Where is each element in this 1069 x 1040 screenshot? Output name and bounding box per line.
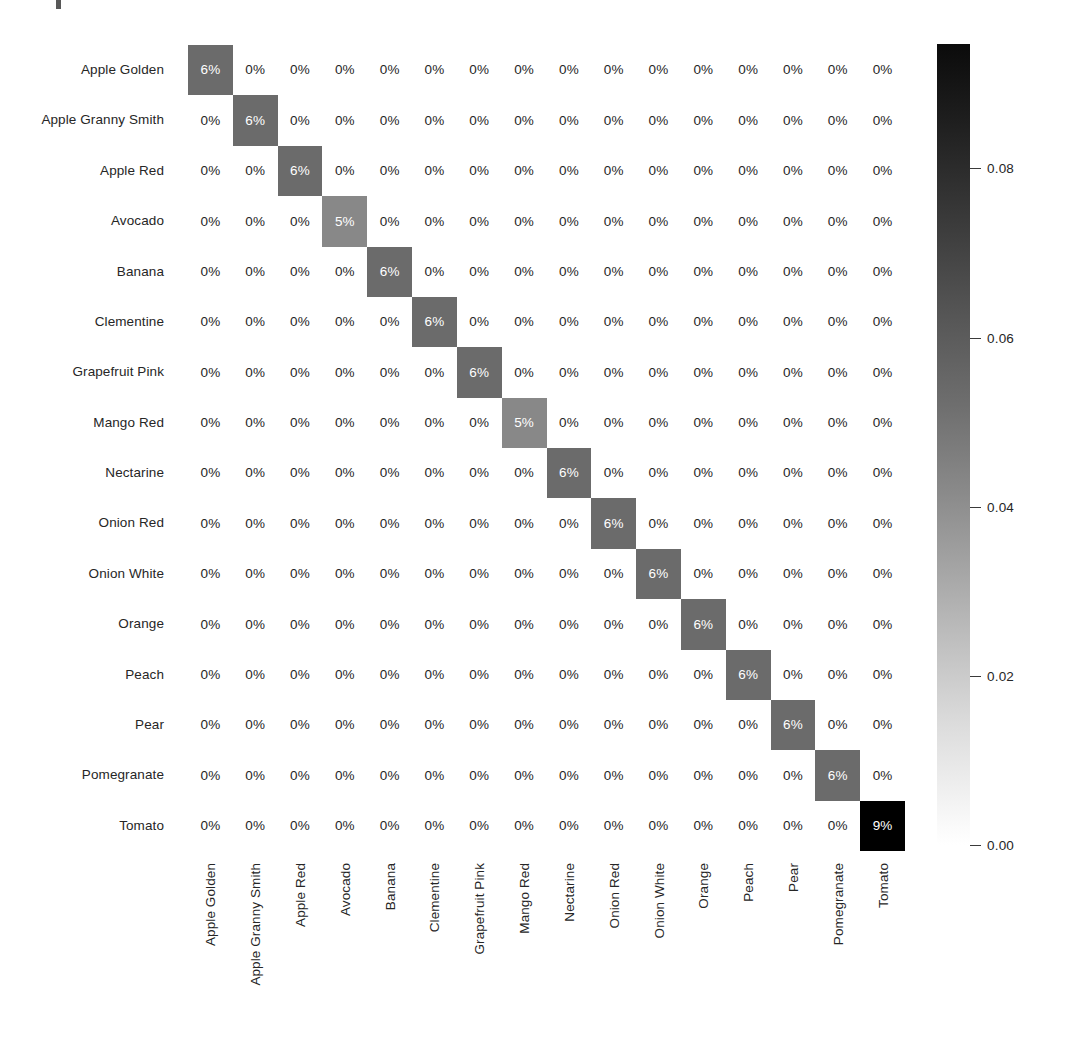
colorbar-tick-label: 0.04 bbox=[987, 499, 1014, 514]
y-axis-tick-label: Orange bbox=[118, 599, 164, 649]
matrix-cell: 0% bbox=[233, 45, 278, 95]
x-axis-tick-slot: Tomato bbox=[860, 851, 905, 1031]
matrix-cell: 0% bbox=[771, 801, 816, 851]
matrix-cell: 0% bbox=[815, 801, 860, 851]
matrix-cell: 0% bbox=[547, 398, 592, 448]
y-axis-tick-label: Apple Red bbox=[100, 146, 164, 196]
matrix-cell: 0% bbox=[815, 297, 860, 347]
matrix-cell: 0% bbox=[457, 498, 502, 548]
matrix-cell: 0% bbox=[278, 297, 323, 347]
matrix-cell: 0% bbox=[681, 247, 726, 297]
matrix-cell: 0% bbox=[367, 700, 412, 750]
x-axis-tick-slot: Mango Red bbox=[502, 851, 547, 1031]
x-axis-tick-label: Banana bbox=[382, 863, 397, 910]
matrix-cell: 0% bbox=[322, 498, 367, 548]
matrix-cell: 0% bbox=[502, 196, 547, 246]
matrix-cell: 0% bbox=[457, 700, 502, 750]
matrix-cell: 0% bbox=[233, 650, 278, 700]
matrix-cell: 0% bbox=[860, 549, 905, 599]
matrix-cell: 0% bbox=[547, 801, 592, 851]
matrix-cell: 0% bbox=[815, 599, 860, 649]
matrix-cell: 0% bbox=[860, 700, 905, 750]
matrix-cell: 0% bbox=[681, 549, 726, 599]
matrix-cell: 0% bbox=[412, 549, 457, 599]
matrix-cell: 0% bbox=[278, 347, 323, 397]
matrix-cell: 0% bbox=[815, 146, 860, 196]
matrix-cell: 0% bbox=[681, 650, 726, 700]
matrix-cell: 0% bbox=[726, 599, 771, 649]
matrix-cell: 0% bbox=[726, 801, 771, 851]
matrix-cell: 0% bbox=[457, 398, 502, 448]
matrix-cell: 0% bbox=[502, 599, 547, 649]
matrix-cell: 0% bbox=[412, 801, 457, 851]
matrix-cell: 0% bbox=[815, 700, 860, 750]
matrix-cell: 0% bbox=[457, 650, 502, 700]
matrix-cell: 0% bbox=[278, 498, 323, 548]
matrix-cell: 0% bbox=[726, 196, 771, 246]
matrix-cell: 0% bbox=[591, 750, 636, 800]
colorbar-tick-label: 0.08 bbox=[987, 161, 1014, 176]
heatmap-grid: 6%0%0%0%0%0%0%0%0%0%0%0%0%0%0%0%0%6%0%0%… bbox=[188, 45, 905, 851]
matrix-cell: 0% bbox=[502, 347, 547, 397]
matrix-cell: 0% bbox=[188, 750, 233, 800]
matrix-cell: 6% bbox=[547, 448, 592, 498]
matrix-row: 6%0%0%0%0%0%0%0%0%0%0%0%0%0%0%0% bbox=[188, 45, 905, 95]
matrix-cell: 0% bbox=[771, 448, 816, 498]
matrix-cell: 0% bbox=[860, 95, 905, 145]
matrix-cell: 0% bbox=[591, 448, 636, 498]
matrix-cell: 0% bbox=[367, 45, 412, 95]
matrix-cell: 0% bbox=[547, 146, 592, 196]
matrix-cell: 6% bbox=[771, 700, 816, 750]
matrix-cell: 0% bbox=[860, 297, 905, 347]
matrix-cell: 0% bbox=[457, 801, 502, 851]
x-axis-tick-label: Peach bbox=[741, 863, 756, 902]
matrix-cell: 0% bbox=[233, 700, 278, 750]
matrix-cell: 0% bbox=[681, 398, 726, 448]
x-axis-tick-label: Grapefruit Pink bbox=[472, 863, 487, 955]
matrix-cell: 0% bbox=[860, 750, 905, 800]
matrix-cell: 0% bbox=[591, 146, 636, 196]
matrix-cell: 6% bbox=[591, 498, 636, 548]
matrix-cell: 0% bbox=[547, 95, 592, 145]
colorbar-tick-label: 0.06 bbox=[987, 330, 1014, 345]
matrix-cell: 0% bbox=[278, 448, 323, 498]
matrix-cell: 0% bbox=[547, 297, 592, 347]
matrix-cell: 0% bbox=[412, 750, 457, 800]
matrix-cell: 6% bbox=[367, 247, 412, 297]
matrix-cell: 0% bbox=[278, 801, 323, 851]
matrix-cell: 0% bbox=[322, 650, 367, 700]
matrix-cell: 0% bbox=[367, 801, 412, 851]
matrix-row: 0%0%6%0%0%0%0%0%0%0%0%0%0%0%0%0% bbox=[188, 146, 905, 196]
matrix-cell: 0% bbox=[502, 750, 547, 800]
matrix-cell: 0% bbox=[681, 750, 726, 800]
matrix-cell: 5% bbox=[502, 398, 547, 448]
y-axis-tick-label: Tomato bbox=[119, 801, 164, 851]
matrix-cell: 0% bbox=[278, 45, 323, 95]
matrix-cell: 0% bbox=[771, 347, 816, 397]
matrix-cell: 0% bbox=[771, 650, 816, 700]
matrix-cell: 0% bbox=[636, 45, 681, 95]
matrix-cell: 0% bbox=[547, 247, 592, 297]
matrix-cell: 0% bbox=[502, 146, 547, 196]
matrix-row: 0%6%0%0%0%0%0%0%0%0%0%0%0%0%0%0% bbox=[188, 95, 905, 145]
matrix-cell: 0% bbox=[278, 247, 323, 297]
matrix-cell: 0% bbox=[591, 650, 636, 700]
matrix-cell: 0% bbox=[502, 650, 547, 700]
matrix-cell: 0% bbox=[636, 347, 681, 397]
matrix-cell: 0% bbox=[502, 498, 547, 548]
matrix-cell: 0% bbox=[636, 398, 681, 448]
matrix-cell: 0% bbox=[771, 549, 816, 599]
matrix-cell: 0% bbox=[367, 146, 412, 196]
x-axis-tick-slot: Clementine bbox=[412, 851, 457, 1031]
x-axis-tick-label: Nectarine bbox=[561, 863, 576, 922]
matrix-cell: 0% bbox=[681, 95, 726, 145]
matrix-cell: 6% bbox=[188, 45, 233, 95]
matrix-cell: 0% bbox=[278, 196, 323, 246]
matrix-cell: 0% bbox=[188, 196, 233, 246]
matrix-cell: 0% bbox=[367, 95, 412, 145]
matrix-cell: 0% bbox=[322, 45, 367, 95]
x-axis-tick-label: Avocado bbox=[337, 863, 352, 916]
x-axis-tick-slot: Pomegranate bbox=[815, 851, 860, 1031]
matrix-cell: 6% bbox=[233, 95, 278, 145]
matrix-cell: 0% bbox=[233, 398, 278, 448]
